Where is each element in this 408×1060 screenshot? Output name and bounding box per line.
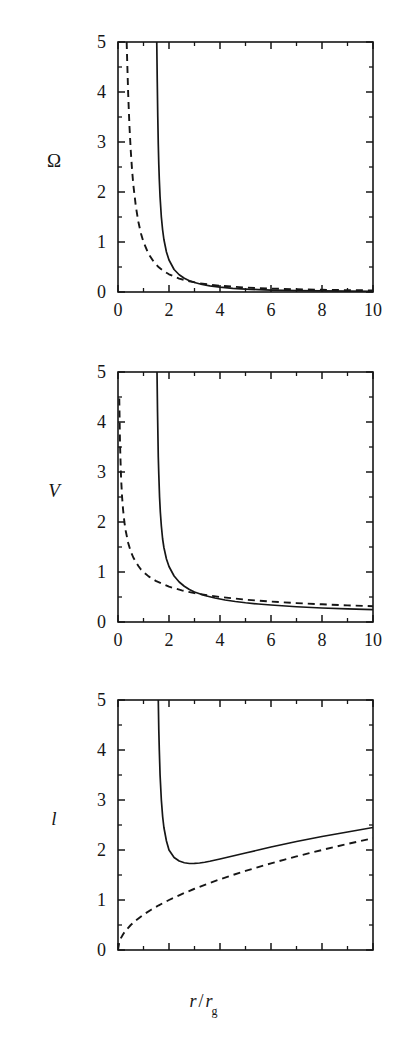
y-tick-label: 5 bbox=[97, 690, 106, 710]
y-tick-label: 2 bbox=[97, 840, 106, 860]
y-tick-label: 5 bbox=[97, 362, 106, 382]
curve-relativistic bbox=[158, 700, 373, 864]
panel-omega-ylabel: Ω bbox=[34, 150, 74, 172]
panel-v-ylabel: V bbox=[34, 480, 74, 502]
x-tick-label: 0 bbox=[114, 630, 123, 650]
x-tick-label: 2 bbox=[165, 300, 174, 320]
x-axis-label: r/rg bbox=[0, 991, 408, 1016]
x-tick-label: 6 bbox=[267, 630, 276, 650]
x-axis-label-slash: / bbox=[196, 991, 205, 1011]
y-tick-label: 5 bbox=[97, 32, 106, 52]
panel-omega: Ω 0246810012345 bbox=[0, 0, 408, 340]
figure-orbital-quantities: Ω 0246810012345 V 0246810012345 l 024681… bbox=[0, 0, 408, 1060]
curve-newtonian bbox=[127, 42, 373, 290]
y-tick-label: 3 bbox=[97, 462, 106, 482]
y-tick-label: 4 bbox=[97, 412, 106, 432]
y-tick-label: 2 bbox=[97, 182, 106, 202]
x-tick-label: 4 bbox=[216, 630, 225, 650]
y-tick-label: 3 bbox=[97, 132, 106, 152]
y-tick-label: 0 bbox=[97, 940, 106, 958]
y-tick-label: 2 bbox=[97, 512, 106, 532]
y-tick-label: 4 bbox=[97, 82, 106, 102]
y-tick-label: 1 bbox=[97, 562, 106, 582]
curve-newtonian bbox=[118, 838, 373, 950]
panel-l-ylabel: l bbox=[34, 808, 74, 830]
x-axis-label-subscript: g bbox=[212, 1004, 218, 1018]
x-tick-label: 0 bbox=[114, 300, 123, 320]
x-tick-label: 10 bbox=[364, 300, 382, 320]
y-tick-label: 0 bbox=[97, 282, 106, 302]
panel-v: V 0246810012345 bbox=[0, 330, 408, 670]
curve-relativistic bbox=[157, 42, 373, 291]
y-tick-label: 1 bbox=[97, 232, 106, 252]
x-tick-label: 8 bbox=[318, 630, 327, 650]
x-tick-label: 8 bbox=[318, 300, 327, 320]
x-tick-label: 4 bbox=[216, 300, 225, 320]
y-tick-label: 1 bbox=[97, 890, 106, 910]
y-tick-label: 4 bbox=[97, 740, 106, 760]
y-tick-label: 3 bbox=[97, 790, 106, 810]
x-tick-label: 6 bbox=[267, 300, 276, 320]
x-tick-label: 2 bbox=[165, 630, 174, 650]
y-tick-label: 0 bbox=[97, 612, 106, 632]
x-tick-label: 10 bbox=[364, 630, 382, 650]
panel-l: l 0246810012345 r/rg bbox=[0, 658, 408, 1060]
curve-relativistic bbox=[157, 372, 373, 610]
